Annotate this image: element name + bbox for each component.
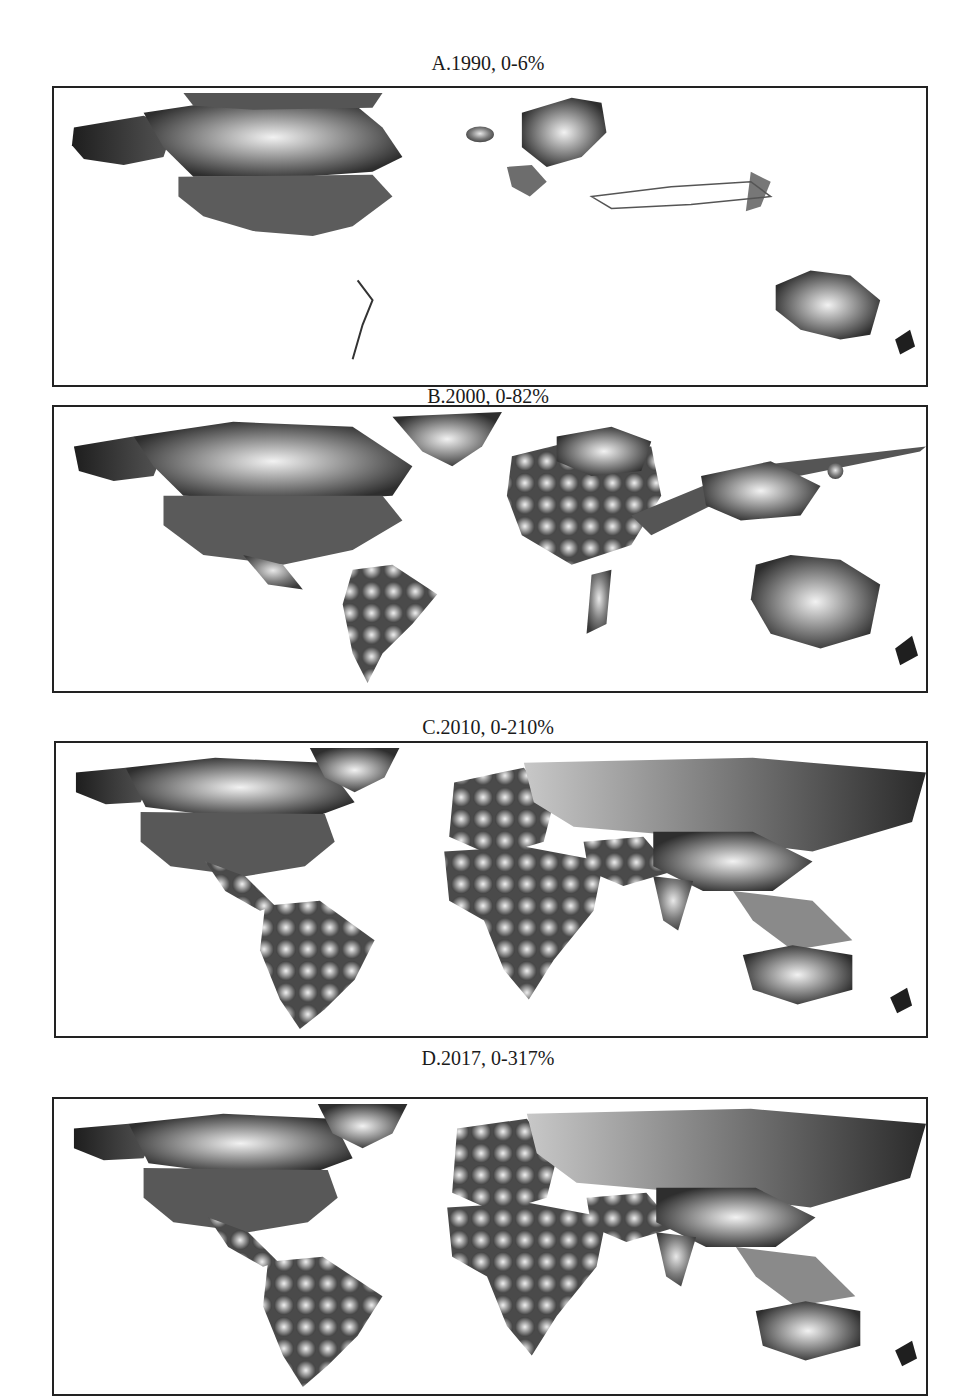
region-usa: [144, 1168, 338, 1232]
panel-a-map: [52, 86, 928, 387]
region-south-america: [263, 1257, 382, 1387]
region-india: [653, 876, 693, 930]
region-usa: [178, 175, 392, 236]
region-southeast-asia: [736, 1247, 855, 1306]
region-canada: [134, 422, 413, 501]
world-map-2017: [54, 1099, 926, 1394]
region-new-zealand: [895, 636, 918, 666]
region-western-europe: [507, 165, 547, 197]
region-greenland: [392, 412, 501, 466]
region-southeast-asia: [733, 891, 852, 950]
panel-a-title: A.1990, 0-6%: [0, 52, 976, 74]
region-japan: [746, 172, 771, 211]
region-usa: [141, 812, 335, 876]
panel-d-map: [52, 1097, 928, 1396]
region-new-zealand: [895, 330, 915, 355]
world-map-2000: [54, 407, 926, 691]
region-new-zealand: [890, 988, 912, 1014]
region-new-zealand: [895, 1341, 917, 1367]
region-scandinavia: [522, 98, 607, 167]
region-usa: [163, 496, 402, 565]
panel-d-title: D.2017, 0-317%: [0, 1047, 976, 1069]
panel-c-map: [54, 741, 928, 1038]
region-canada: [144, 98, 403, 177]
panel-b-map: [52, 405, 928, 693]
region-iceland: [466, 126, 494, 142]
region-australia: [756, 1301, 861, 1360]
region-south-america: [343, 565, 438, 683]
region-india: [587, 570, 612, 634]
region-africa: [444, 847, 603, 1000]
region-canada: [129, 1114, 353, 1173]
region-australia: [776, 271, 881, 340]
region-south-america: [260, 901, 374, 1029]
region-korea: [827, 463, 843, 479]
region-india: [656, 1232, 696, 1286]
region-asia-islands: [592, 182, 771, 209]
region-central-america-line: [353, 280, 373, 359]
panel-b-title: B.2000, 0-82%: [0, 385, 976, 407]
world-map-1990: [54, 88, 926, 385]
region-australia: [751, 555, 880, 649]
region-australia: [743, 945, 852, 1004]
region-africa: [447, 1203, 606, 1356]
panel-c-title: C.2010, 0-210%: [0, 716, 976, 738]
world-map-2010: [56, 743, 926, 1036]
